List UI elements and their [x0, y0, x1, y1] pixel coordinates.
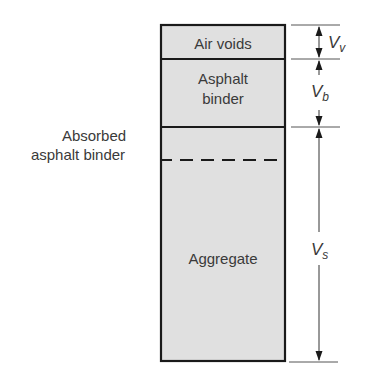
label-binder: binder [202, 90, 244, 107]
asphalt-phase-diagram: Air voids Asphalt binder Aggregate Absor… [0, 0, 368, 385]
arrow-down-icon [316, 48, 323, 58]
arrow-up-icon [316, 128, 323, 138]
arrow-up-icon [316, 60, 323, 70]
arrow-down-icon [316, 351, 323, 361]
label-absorbed: Absorbed [62, 127, 126, 144]
label-asphalt: Asphalt [198, 70, 249, 87]
label-air-voids: Air voids [194, 35, 252, 52]
label-asphalt-binder-absorbed: asphalt binder [31, 146, 125, 163]
label-aggregate: Aggregate [188, 250, 257, 267]
extension-lines [289, 25, 340, 362]
arrow-down-icon [316, 116, 323, 126]
arrow-up-icon [316, 26, 323, 36]
var-vv: Vv [328, 33, 346, 55]
var-vs: Vs [311, 240, 328, 262]
var-vb: Vb [311, 82, 329, 104]
